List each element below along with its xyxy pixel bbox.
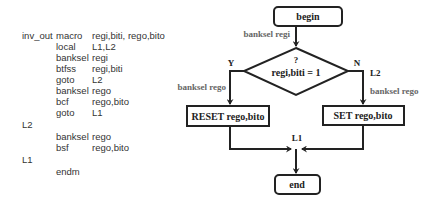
begin-arrow-label: banksel regi bbox=[243, 29, 290, 39]
arrow-reset-merge bbox=[230, 126, 291, 149]
begin-text: begin bbox=[296, 11, 320, 22]
no-arrow-label: banksel rego bbox=[370, 86, 419, 96]
end-text: end bbox=[289, 179, 305, 190]
arrow-set-merge bbox=[302, 125, 363, 149]
decision-condition: regi,biti = 1 bbox=[271, 67, 320, 78]
arrow-no-branch bbox=[348, 71, 363, 104]
set-process-text: SET rego,bito bbox=[333, 110, 392, 121]
reset-process-text: RESET rego,bito bbox=[192, 111, 265, 122]
no-label: N bbox=[354, 58, 361, 68]
decision-question-mark: ? bbox=[294, 55, 299, 65]
no-target-label: L2 bbox=[370, 68, 381, 78]
arrow-yes-branch bbox=[230, 71, 244, 104]
merge-label: L1 bbox=[292, 133, 303, 143]
yes-arrow-label: banksel rego bbox=[177, 82, 226, 92]
flowchart: begin banksel regi ? regi,biti = 1 Y ban… bbox=[0, 0, 445, 202]
yes-label: Y bbox=[228, 58, 235, 68]
